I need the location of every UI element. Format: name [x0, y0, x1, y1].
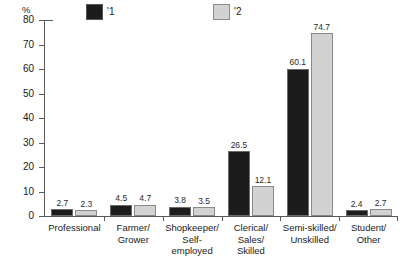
x-axis-end-tick	[397, 216, 398, 221]
bar-series-1	[169, 207, 191, 216]
bar-value-label: 12.1	[248, 176, 278, 185]
x-axis-separator-tick	[339, 216, 340, 221]
bar-value-label: 2.3	[71, 200, 101, 209]
bar-group: 26.512.1	[222, 20, 281, 216]
category-label: Farmer/Grower	[104, 222, 163, 245]
category-label-line: Grower	[104, 234, 163, 246]
bar-series-1	[51, 209, 73, 216]
category-label-line: Self-employed	[163, 234, 222, 257]
bar-value-label: 2.7	[366, 199, 396, 208]
bar-value-label: 3.5	[189, 197, 219, 206]
bar-series-2	[370, 209, 392, 216]
bar-series-1	[287, 69, 309, 216]
category-label: Clerical/Sales/Skilled	[222, 222, 281, 257]
bar-group: 3.83.5	[163, 20, 222, 216]
category-label: Professional	[45, 222, 104, 234]
y-axis-tick-label: 20	[0, 162, 34, 172]
bar-series-2	[75, 210, 97, 216]
bar-group: 2.72.3	[45, 20, 104, 216]
category-label: Shopkeeper/Self-employed	[163, 222, 222, 257]
bar-series-2	[193, 207, 215, 216]
bar-series-1	[110, 205, 132, 216]
bar-value-label: 26.5	[224, 141, 254, 150]
bar-value-label: 60.1	[283, 58, 313, 67]
bar-value-label: 4.7	[130, 194, 160, 203]
y-axis-tick-label: 30	[0, 138, 34, 148]
grouped-bar-chart: '1 '2 % 01020304050607080 2.72.34.54.73.…	[0, 0, 404, 264]
bar-series-1	[346, 210, 368, 216]
plot-area: 2.72.34.54.73.83.526.512.160.174.72.42.7	[45, 20, 398, 216]
bar-series-2	[311, 33, 333, 216]
x-axis-separator-tick	[222, 216, 223, 221]
x-axis-category-labels: ProfessionalFarmer/GrowerShopkeeper/Self…	[45, 222, 398, 264]
category-label-line: Other	[339, 234, 398, 246]
category-label-line: Professional	[45, 222, 104, 234]
bar-series-2	[252, 186, 274, 216]
bar-group: 4.54.7	[104, 20, 163, 216]
y-axis-tick-label: 0	[0, 211, 34, 221]
y-axis-tick-label: 40	[0, 113, 34, 123]
category-label-line: Shopkeeper/	[163, 222, 222, 234]
x-axis-separator-tick	[163, 216, 164, 221]
category-label: Student/Other	[339, 222, 398, 245]
y-axis-tick-label: 70	[0, 40, 34, 50]
legend-item-series-1: '1	[86, 4, 114, 20]
category-label-line: Semi-skilled/	[280, 222, 339, 234]
category-label-line: Clerical/	[222, 222, 281, 234]
legend-label-series-1: '1	[107, 7, 114, 17]
category-label-line: Student/	[339, 222, 398, 234]
category-label: Semi-skilled/Unskilled	[280, 222, 339, 245]
light-square-swatch-icon	[213, 4, 230, 20]
bar-value-label: 74.7	[307, 23, 337, 32]
y-axis-tick	[39, 216, 45, 217]
y-axis-tick-label: 50	[0, 89, 34, 99]
bar-group: 60.174.7	[280, 20, 339, 216]
dark-square-swatch-icon	[86, 4, 103, 20]
bar-series-1	[228, 151, 250, 216]
category-label-line: Sales/	[222, 234, 281, 246]
legend-label-series-2: '2	[234, 7, 241, 17]
category-label-line: Unskilled	[280, 234, 339, 246]
x-axis-separator-tick	[104, 216, 105, 221]
legend-item-series-2: '2	[213, 4, 241, 20]
y-axis-tick-label: 60	[0, 64, 34, 74]
x-axis-separator-tick	[280, 216, 281, 221]
bar-group: 2.42.7	[339, 20, 398, 216]
category-label-line: Farmer/	[104, 222, 163, 234]
y-axis-tick-label: 80	[0, 15, 34, 25]
y-axis-tick-label: 10	[0, 187, 34, 197]
bar-series-2	[134, 205, 156, 217]
category-label-line: Skilled	[222, 245, 281, 257]
